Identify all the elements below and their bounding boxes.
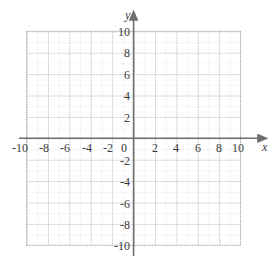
x-axis-label: x	[262, 141, 267, 153]
y-tick-label-neg4: -4	[100, 176, 130, 188]
x-tick-label-origin: 0	[116, 142, 132, 154]
y-tick-label-10: 10	[100, 26, 130, 38]
coordinate-plane: -10 -8 -6 -4 -2 0 2 4 6 8 10 10 8 6 4 2 …	[0, 0, 276, 264]
y-tick-label-neg8: -8	[100, 219, 130, 231]
y-tick-label-8: 8	[100, 47, 130, 59]
y-tick-label-neg2: -2	[100, 155, 130, 167]
y-axis-label: y	[125, 9, 130, 21]
y-tick-label-2: 2	[100, 112, 130, 124]
coordinate-grid-svg	[0, 0, 276, 264]
y-tick-label-4: 4	[100, 90, 130, 102]
x-tick-label-10: 10	[222, 142, 254, 154]
y-tick-label-neg6: -6	[100, 198, 130, 210]
y-tick-label-neg10: -10	[100, 240, 130, 252]
y-tick-label-6: 6	[100, 69, 130, 81]
